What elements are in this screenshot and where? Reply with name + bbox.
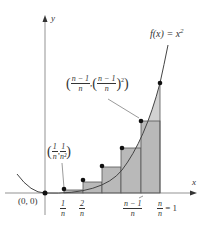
y-axis-label: y xyxy=(51,14,55,23)
point-6 xyxy=(158,81,163,86)
y-axis-arrow-icon xyxy=(43,15,48,22)
point-5 xyxy=(139,119,144,124)
last-point-label: (n − 1n,(n − 1n)2) xyxy=(66,74,129,93)
last-point-y: n − 1n xyxy=(97,74,116,93)
x-axis-arrow-icon xyxy=(190,191,197,196)
tick-mark xyxy=(139,196,143,198)
leader-line-last-point xyxy=(108,99,139,118)
function-exponent: 2 xyxy=(180,27,184,35)
inscribed-rectangles xyxy=(64,121,160,193)
tick-label-n-over-n: nn = 1 xyxy=(157,199,177,218)
rectangle-2 xyxy=(83,182,102,193)
last-point-x: n − 1n xyxy=(71,74,90,93)
first-point-label: (1n,1n²) xyxy=(47,142,71,161)
point-1 xyxy=(62,187,67,192)
function-label: f(x) = x2 xyxy=(150,28,184,39)
point-4 xyxy=(120,146,125,151)
function-text: f(x) = x xyxy=(150,28,180,39)
origin-label: (0, 0) xyxy=(18,197,38,206)
leader-line-first-point xyxy=(62,163,64,188)
equals-one: = 1 xyxy=(165,203,177,213)
rectangle-4 xyxy=(121,148,141,193)
x-axis-label: x xyxy=(192,178,196,187)
tick-label-1-over-n: 1n xyxy=(60,199,66,218)
point-2 xyxy=(81,178,86,183)
point-3 xyxy=(100,164,105,169)
tick-label-2-over-n: 2n xyxy=(79,199,85,218)
tick-label-n-minus-1-over-n: n − 1n xyxy=(123,199,142,218)
point-origin xyxy=(43,191,48,196)
close-paren: ) xyxy=(66,144,71,159)
close-paren: ) xyxy=(124,76,129,91)
